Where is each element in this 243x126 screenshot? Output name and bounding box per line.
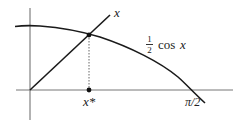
fraction-numerator: 1 — [146, 35, 153, 44]
fixed-point-marker — [87, 88, 92, 93]
cosine-label-text: cos — [158, 38, 175, 51]
fixed-point-label: x* — [83, 95, 95, 108]
half-cosine-curve — [15, 26, 205, 103]
fraction-denominator: 2 — [146, 46, 153, 55]
intersection-point — [87, 33, 92, 38]
pi-over-two-label: π/2 — [185, 96, 200, 108]
identity-line-label: x — [114, 6, 120, 19]
cosine-label-variable: x — [180, 38, 186, 51]
diagram-canvas — [0, 0, 243, 126]
fixed-point-diagram: x 1 2 cos x x* π/2 — [0, 0, 243, 126]
